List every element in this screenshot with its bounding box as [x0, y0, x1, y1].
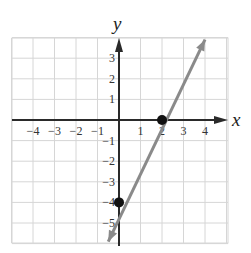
- y-axis-arrow-icon: [115, 38, 123, 52]
- y-tick-label: −3: [102, 175, 115, 189]
- coordinate-plane: −4−3−2−11234321−1−2−3−4−5 x y: [0, 0, 251, 253]
- line-arrow-icon: [196, 40, 205, 52]
- x-intercept-point: [157, 115, 167, 125]
- x-tick-label: −2: [70, 124, 83, 138]
- x-tick-label: −4: [27, 124, 40, 138]
- y-tick-label: −1: [102, 134, 115, 148]
- y-tick-label: 2: [109, 72, 115, 86]
- y-tick-label: 1: [109, 92, 115, 106]
- x-axis-arrow-icon: [214, 116, 228, 124]
- y-intercept-point: [114, 197, 124, 207]
- line-arrow-icon: [108, 230, 117, 242]
- x-axis-label: x: [231, 109, 241, 130]
- x-tick-label: 1: [138, 124, 144, 138]
- y-tick-label: −5: [102, 216, 115, 230]
- y-axis-label: y: [111, 13, 122, 34]
- y-tick-label: −4: [102, 195, 115, 209]
- x-tick-label: 3: [181, 124, 187, 138]
- x-tick-label: 4: [202, 124, 208, 138]
- y-tick-label: −2: [102, 154, 115, 168]
- y-tick-label: 3: [109, 51, 115, 65]
- x-tick-label: −3: [48, 124, 61, 138]
